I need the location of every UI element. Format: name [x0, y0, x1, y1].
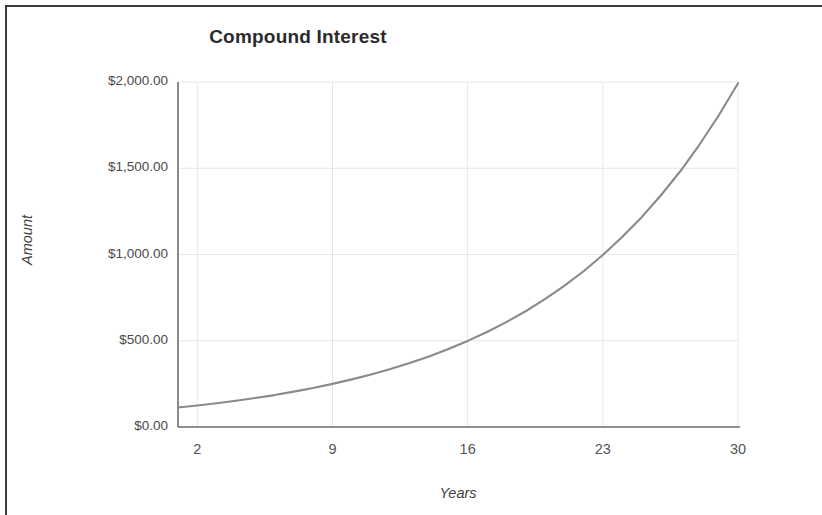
x-axis-title: Years: [368, 485, 548, 501]
chart-screenshot: Compound Interest $0.00$500.00$1,000.00$…: [0, 0, 822, 515]
x-axis-tick-labels: 29162330: [0, 0, 822, 515]
x-axis-tick-label: 16: [433, 441, 503, 457]
x-axis-tick-label: 2: [162, 441, 232, 457]
x-axis-tick-label: 9: [297, 441, 367, 457]
y-axis-title: Amount: [19, 195, 35, 285]
x-axis-tick-label: 30: [703, 441, 773, 457]
x-axis-tick-label: 23: [568, 441, 638, 457]
